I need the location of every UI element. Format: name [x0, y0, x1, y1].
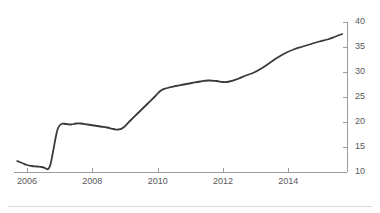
y-tick-label: 15 [355, 141, 365, 151]
x-tick-label: 2006 [17, 176, 37, 186]
x-tick-label: 2010 [148, 176, 168, 186]
x-axis-ticks [28, 168, 289, 172]
x-tick-label: 2012 [213, 176, 233, 186]
y-tick-label: 20 [355, 116, 365, 126]
y-tick-label: 25 [355, 91, 365, 101]
data-series-line [17, 34, 342, 169]
y-tick-label: 35 [355, 41, 365, 51]
plot-area [17, 34, 342, 169]
chart-figure: 20062008201020122014 10152025303540 [0, 0, 380, 213]
y-axis: 10152025303540 [343, 16, 365, 176]
y-axis-tick-labels: 10152025303540 [355, 16, 365, 176]
x-axis: 20062008201020122014 [14, 168, 347, 186]
x-axis-tick-labels: 20062008201020122014 [17, 176, 298, 186]
x-tick-label: 2008 [82, 176, 102, 186]
line-chart: 20062008201020122014 10152025303540 [0, 0, 380, 213]
y-tick-label: 10 [355, 166, 365, 176]
y-tick-label: 40 [355, 16, 365, 26]
y-axis-ticks [343, 23, 347, 173]
x-tick-label: 2014 [278, 176, 298, 186]
y-tick-label: 30 [355, 66, 365, 76]
